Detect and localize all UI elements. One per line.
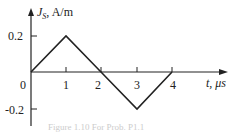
ytick-neg0.2: -0.2 bbox=[5, 104, 24, 116]
ytick-0.2: 0.2 bbox=[8, 30, 23, 42]
x-axis-arrow-icon bbox=[219, 69, 228, 75]
origin-label: 0 bbox=[20, 79, 26, 91]
xtick-1: 1 bbox=[63, 79, 69, 91]
y-axis-arrow-icon bbox=[28, 8, 34, 16]
xtick-3: 3 bbox=[134, 79, 140, 91]
chart-plot bbox=[0, 0, 239, 136]
figure-caption: Figure 1.10 For Prob. P1.1 bbox=[48, 122, 144, 132]
x-axis-label: t, μs bbox=[206, 77, 226, 89]
xtick-4: 4 bbox=[170, 79, 176, 91]
xtick-2: 2 bbox=[95, 79, 101, 91]
y-axis-label: JS, A/m bbox=[37, 6, 73, 23]
